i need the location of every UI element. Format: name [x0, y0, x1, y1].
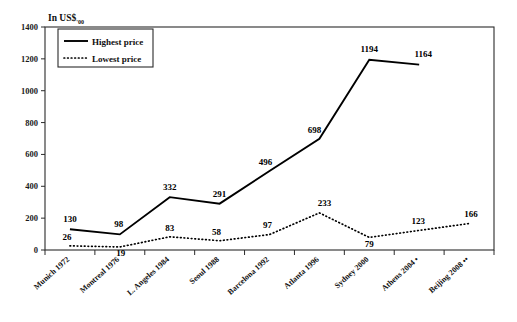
data-label: 83	[165, 223, 175, 233]
svg-text:Atlanta 1996: Atlanta 1996	[282, 255, 321, 291]
x-axis-tick-label: Montreal 1976	[78, 255, 121, 295]
data-label: 97	[263, 220, 273, 230]
series-line-highest-price	[70, 60, 419, 235]
y-axis-tick-label: 400	[25, 181, 38, 191]
data-label: 98	[114, 219, 124, 229]
line-chart-canvas: In US$'000200400600800100012001400Munich…	[0, 0, 517, 322]
data-label: 1164	[414, 49, 432, 59]
data-label: 19	[116, 248, 126, 258]
data-label: 58	[212, 227, 222, 237]
legend-label-highest-price: Highest price	[92, 37, 143, 47]
y-axis-tick-label: 1000	[21, 86, 38, 96]
legend-label-lowest-price: Lowest price	[92, 54, 141, 64]
data-label: 130	[63, 214, 77, 224]
y-axis-tick-label: 0	[34, 245, 38, 255]
x-axis-tick-label: Atlanta 1996	[282, 255, 321, 291]
x-axis-tick-label: Athens 2004 •	[380, 255, 421, 293]
data-label: 166	[464, 209, 478, 219]
y-axis-tick-label: 1400	[21, 22, 38, 32]
svg-text:Barcelona 1992: Barcelona 1992	[226, 255, 271, 297]
data-label: 233	[318, 198, 332, 208]
series-line-lowest-price	[70, 213, 469, 247]
x-axis-tick-label: Barcelona 1992	[226, 255, 271, 297]
chart-unit-title: In US$'00	[48, 13, 84, 25]
x-axis-tick-label: Beijing 2008 ••	[427, 255, 470, 295]
data-label: 496	[259, 157, 273, 167]
x-axis-tick-label: Seoul 1988	[188, 255, 221, 286]
svg-text:Athens 2004 •: Athens 2004 •	[380, 255, 421, 293]
svg-text:Beijing 2008 ••: Beijing 2008 ••	[427, 255, 470, 295]
olympic-ticket-price-chart: In US$'000200400600800100012001400Munich…	[0, 0, 517, 322]
svg-text:Montreal 1976: Montreal 1976	[78, 255, 121, 295]
x-axis-tick-label: Munich 1972	[32, 255, 71, 292]
x-axis-tick-label: L. Angeles 1984	[125, 255, 171, 298]
y-axis-tick-label: 600	[25, 149, 38, 159]
svg-text:L. Angeles 1984: L. Angeles 1984	[125, 255, 171, 298]
data-label: 698	[308, 125, 322, 135]
y-axis-tick-label: 800	[25, 118, 38, 128]
svg-text:Munich 1972: Munich 1972	[32, 255, 71, 292]
data-label: 26	[62, 232, 72, 242]
data-label: 79	[365, 239, 375, 249]
x-axis-tick-label: Sydney 2000	[333, 255, 371, 290]
svg-text:Seoul 1988: Seoul 1988	[188, 255, 221, 286]
y-axis-tick-label: 200	[25, 213, 38, 223]
data-label: 291	[213, 189, 227, 199]
svg-text:Sydney 2000: Sydney 2000	[333, 255, 371, 290]
y-axis-tick-label: 1200	[21, 54, 38, 64]
data-label: 332	[163, 182, 177, 192]
data-label: 123	[411, 216, 425, 226]
data-label: 1194	[361, 44, 379, 54]
